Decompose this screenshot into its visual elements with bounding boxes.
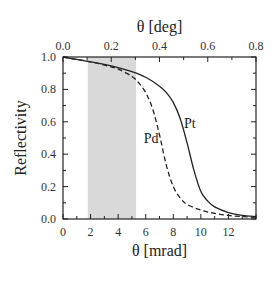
top-axis-label: θ [deg]	[137, 18, 182, 36]
reflectivity-chart: 0246810120.00.20.40.60.80.00.20.40.60.81…	[0, 0, 276, 282]
x-axis-label: θ [mrad]	[132, 242, 187, 259]
shaded-region	[88, 57, 136, 219]
svg-text:0.0: 0.0	[56, 39, 71, 53]
svg-text:0.2: 0.2	[41, 180, 56, 194]
svg-text:8: 8	[170, 225, 176, 239]
svg-text:1.0: 1.0	[41, 50, 56, 64]
svg-text:10: 10	[195, 225, 207, 239]
svg-text:0.6: 0.6	[41, 115, 56, 129]
label-pd: Pd	[144, 131, 159, 146]
svg-text:4: 4	[115, 225, 121, 239]
curve-labels: PtPd	[144, 116, 196, 146]
svg-text:2: 2	[88, 225, 94, 239]
svg-text:12: 12	[222, 225, 234, 239]
svg-text:0: 0	[60, 225, 66, 239]
svg-text:0.4: 0.4	[41, 147, 56, 161]
svg-text:0.8: 0.8	[41, 82, 56, 96]
y-axis-label: Reflectivity	[12, 100, 30, 176]
svg-text:0.0: 0.0	[41, 212, 56, 226]
label-pt: Pt	[184, 116, 196, 131]
svg-text:0.8: 0.8	[249, 39, 264, 53]
svg-text:6: 6	[143, 225, 149, 239]
svg-text:0.2: 0.2	[104, 39, 119, 53]
svg-text:0.6: 0.6	[200, 39, 215, 53]
svg-text:0.4: 0.4	[152, 39, 167, 53]
